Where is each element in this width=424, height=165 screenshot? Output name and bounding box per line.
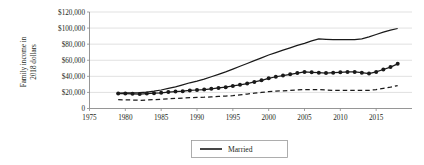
y-tick-label: $20,000	[62, 89, 86, 97]
series-marker	[267, 76, 271, 80]
x-tick-label: 2000	[261, 114, 276, 122]
x-axis: 197519801985199019952000200520102015	[82, 109, 412, 122]
series-marker	[152, 91, 156, 95]
series-marker	[303, 70, 307, 74]
series-marker	[138, 92, 142, 96]
x-tick-label: 1985	[154, 114, 169, 122]
series-marker	[123, 92, 127, 96]
series-marker	[245, 82, 249, 86]
data-series	[116, 28, 400, 100]
gridlines	[90, 12, 413, 92]
series-marker	[131, 92, 135, 96]
series-marker	[324, 71, 328, 75]
series-marker	[331, 71, 335, 75]
series-marker	[338, 70, 342, 74]
legend-label-married: Married	[228, 145, 253, 154]
series-marker	[310, 70, 314, 74]
series-marker	[252, 80, 256, 84]
y-tick-label: $60,000	[62, 57, 86, 65]
series-marker	[260, 78, 264, 82]
series-marker	[174, 90, 178, 94]
x-tick-label: 2015	[369, 114, 384, 122]
y-tick-label: $40,000	[62, 73, 86, 81]
series-marker	[145, 92, 149, 96]
series-marker	[353, 70, 357, 74]
x-tick-label: 1990	[190, 114, 205, 122]
series-marker	[181, 89, 185, 93]
series-marker	[374, 70, 378, 74]
series-marker	[231, 84, 235, 88]
series-marker	[209, 87, 213, 91]
y-tick-label: $100,000	[58, 25, 85, 33]
series-marker	[195, 88, 199, 92]
series-marker	[188, 88, 192, 92]
series-marker	[274, 75, 278, 79]
y-tick-label: $120,000	[58, 9, 85, 17]
series-marker	[360, 71, 364, 75]
x-tick-label: 1995	[226, 114, 241, 122]
series-marker	[159, 91, 163, 95]
family-income-line-chart: 0$20,000$40,000$60,000$80,000$100,000$12…	[0, 0, 424, 165]
series-marker	[288, 72, 292, 76]
series-marker	[202, 88, 206, 92]
y-axis-title: Family income in 2018 dollars	[20, 36, 38, 87]
series-marker	[317, 71, 321, 75]
y-axis-title-line-2: 2018 dollars	[30, 44, 38, 80]
series-marker	[224, 85, 228, 89]
series-marker	[381, 68, 385, 72]
x-axis-ticks: 197519801985199019952000200520102015	[82, 109, 383, 122]
legend: Married	[192, 141, 288, 158]
x-tick-label: 2005	[297, 114, 312, 122]
y-axis-ticks: 0$20,000$40,000$60,000$80,000$100,000$12…	[58, 9, 89, 114]
y-tick-label: $80,000	[62, 41, 86, 49]
series-marker	[367, 72, 371, 76]
x-tick-label: 1975	[82, 114, 97, 122]
x-tick-label: 1980	[118, 114, 133, 122]
x-tick-label: 2010	[333, 114, 348, 122]
series-marker	[346, 70, 350, 74]
y-axis: 0$20,000$40,000$60,000$80,000$100,000$12…	[58, 9, 89, 114]
series-marker	[217, 86, 221, 90]
series-path	[118, 64, 398, 94]
series-marker	[116, 92, 120, 96]
y-tick-label: 0	[81, 105, 85, 113]
series-marker	[295, 71, 299, 75]
series-path	[118, 28, 398, 93]
series-marker	[238, 83, 242, 87]
series-marker	[389, 65, 393, 69]
y-axis-title-line-1: Family income in	[20, 36, 28, 87]
chart-figure: 0$20,000$40,000$60,000$80,000$100,000$12…	[0, 0, 424, 165]
series-marker	[281, 74, 285, 78]
series-marker	[166, 90, 170, 94]
series-marker	[396, 62, 400, 66]
series-1-married	[118, 28, 398, 93]
